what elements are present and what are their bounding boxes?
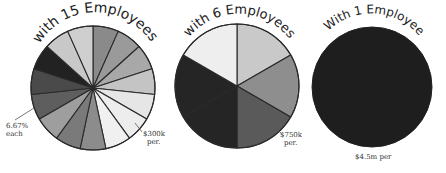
pie-charts-canvas: with 15 Employees with 6 Employees With … <box>0 0 446 173</box>
pie-1-employee <box>312 27 432 147</box>
value-per-label: per. <box>143 138 165 146</box>
pie-1-value-note: $4.5m per <box>355 153 391 161</box>
value-per-label: per. <box>280 139 302 147</box>
pie-15-share-note: 6.67% each <box>6 122 28 138</box>
pie-slice <box>312 27 432 147</box>
pie-15-employees <box>31 26 155 150</box>
value-amount-label: $300k <box>143 130 165 138</box>
value-amount-label: $750k <box>280 131 302 139</box>
pie-6-value-note: $750k per. <box>280 131 302 147</box>
pointer-line-left <box>15 108 34 120</box>
share-each-label: each <box>6 130 28 138</box>
pie-6-employees <box>175 24 299 148</box>
value-amount-label: $4.5m per <box>355 153 391 161</box>
share-percent-label: 6.67% <box>6 122 28 130</box>
pie-15-value-note: $300k per. <box>143 130 165 146</box>
